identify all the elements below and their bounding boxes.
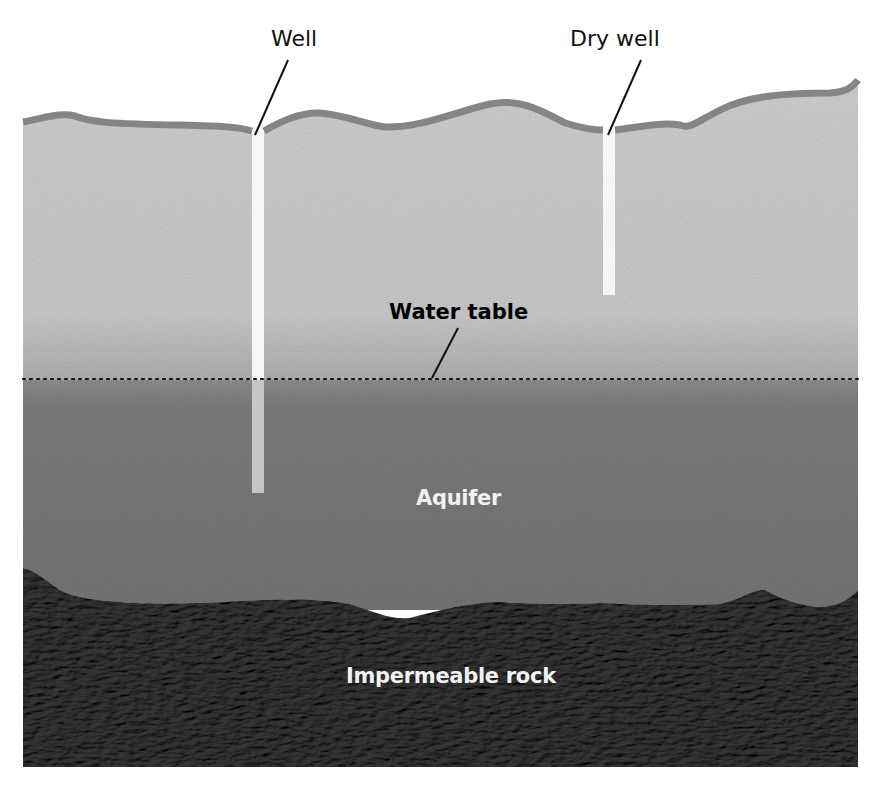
dry-well-label: Dry well bbox=[570, 26, 660, 51]
impermeable-rock-label: Impermeable rock bbox=[346, 664, 556, 688]
aquifer-label: Aquifer bbox=[416, 486, 501, 510]
aquifer-diagram: Well Dry well Water table Aquifer Imperm… bbox=[0, 0, 879, 789]
dry-well-shaft bbox=[603, 129, 615, 295]
well-label: Well bbox=[271, 26, 317, 51]
water-table-label: Water table bbox=[389, 300, 528, 324]
well-shaft bbox=[252, 130, 264, 380]
well-shaft-submerged bbox=[252, 380, 264, 493]
